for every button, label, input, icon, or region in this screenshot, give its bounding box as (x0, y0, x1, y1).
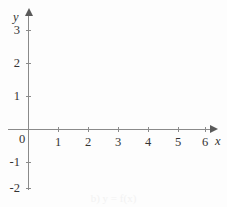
x-axis-tick-label: 2 (85, 136, 91, 149)
x-axis-tick-label: 6 (202, 136, 208, 149)
x-axis-tick-label: 3 (115, 136, 121, 149)
y-axis-arrow-icon (25, 8, 33, 16)
x-axis-tick (178, 127, 179, 132)
y-axis-tick (26, 188, 31, 189)
x-axis-tick-label: 4 (145, 136, 151, 149)
x-axis-tick-label: 1 (55, 136, 61, 149)
x-axis-tick (205, 127, 206, 132)
caption-fragment: b) y = f(x) (0, 193, 227, 207)
x-axis-tick-label: 5 (175, 136, 181, 149)
y-axis-tick-label: 2 (14, 57, 20, 70)
x-axis-tick (118, 127, 119, 132)
y-axis-tick (26, 63, 31, 64)
y-axis-tick (26, 96, 31, 97)
y-axis-label: y (13, 11, 19, 24)
y-axis-tick-label: -1 (10, 156, 20, 169)
y-axis-tick (26, 162, 31, 163)
y-axis-line (28, 13, 29, 190)
y-axis-tick (26, 30, 31, 31)
x-axis-tick (148, 127, 149, 132)
origin-tick-label: 0 (19, 133, 25, 146)
x-axis-arrow-icon (210, 125, 218, 133)
y-axis-tick-label: 1 (14, 90, 20, 103)
y-axis-tick-label: 3 (14, 24, 20, 37)
x-axis-line (8, 129, 213, 130)
x-axis-label: x (215, 135, 221, 148)
x-axis-tick (88, 127, 89, 132)
x-axis-tick (58, 127, 59, 132)
coordinate-plane-figure: 0 1 2 3 4 5 6 3 2 1 -1 -2 x y b) y = f(x… (0, 0, 227, 207)
